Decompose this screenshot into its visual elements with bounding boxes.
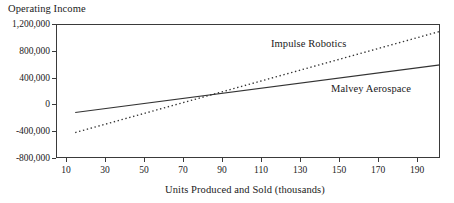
x-tick-mark — [144, 158, 145, 162]
y-tick-mark — [52, 158, 56, 159]
y-tick-label: 0 — [0, 99, 50, 109]
x-tick-mark — [222, 158, 223, 162]
x-axis-title-text: Units Produced and Sold (thousands) — [165, 184, 325, 195]
x-tick-label: 190 — [397, 165, 437, 176]
x-tick-mark — [417, 158, 418, 162]
y-tick-label: 1,200,000 — [0, 19, 50, 29]
x-axis-title: Units Produced and Sold (thousands) — [0, 183, 454, 196]
x-tick-label: 70 — [163, 165, 203, 176]
operating-income-chart: Operating Income 1,200,000 800,000 400,0… — [0, 0, 454, 203]
x-tick-label: 90 — [202, 165, 242, 176]
x-tick-mark — [300, 158, 301, 162]
x-tick-label: 110 — [241, 165, 281, 176]
y-tick-label: 800,000 — [0, 46, 50, 56]
series-label-malvey-aerospace: Malvey Aerospace — [331, 83, 411, 95]
y-axis-title: Operating Income — [8, 2, 86, 15]
x-tick-mark — [183, 158, 184, 162]
x-tick-mark — [339, 158, 340, 162]
y-tick-label: 400,000 — [0, 73, 50, 83]
x-tick-label: 10 — [46, 165, 86, 176]
series-label-impulse-robotics: Impulse Robotics — [271, 38, 346, 50]
x-tick-label: 130 — [280, 165, 320, 176]
series-line-impulse-robotics — [75, 31, 440, 132]
y-tick-label: -400,000 — [0, 126, 50, 136]
x-tick-mark — [378, 158, 379, 162]
x-tick-label: 150 — [319, 165, 359, 176]
x-tick-label: 30 — [85, 165, 125, 176]
x-tick-mark — [105, 158, 106, 162]
x-tick-label: 50 — [124, 165, 164, 176]
x-tick-mark — [66, 158, 67, 162]
x-tick-label: 170 — [358, 165, 398, 176]
y-tick-label: -800,000 — [0, 153, 50, 163]
x-tick-mark — [261, 158, 262, 162]
